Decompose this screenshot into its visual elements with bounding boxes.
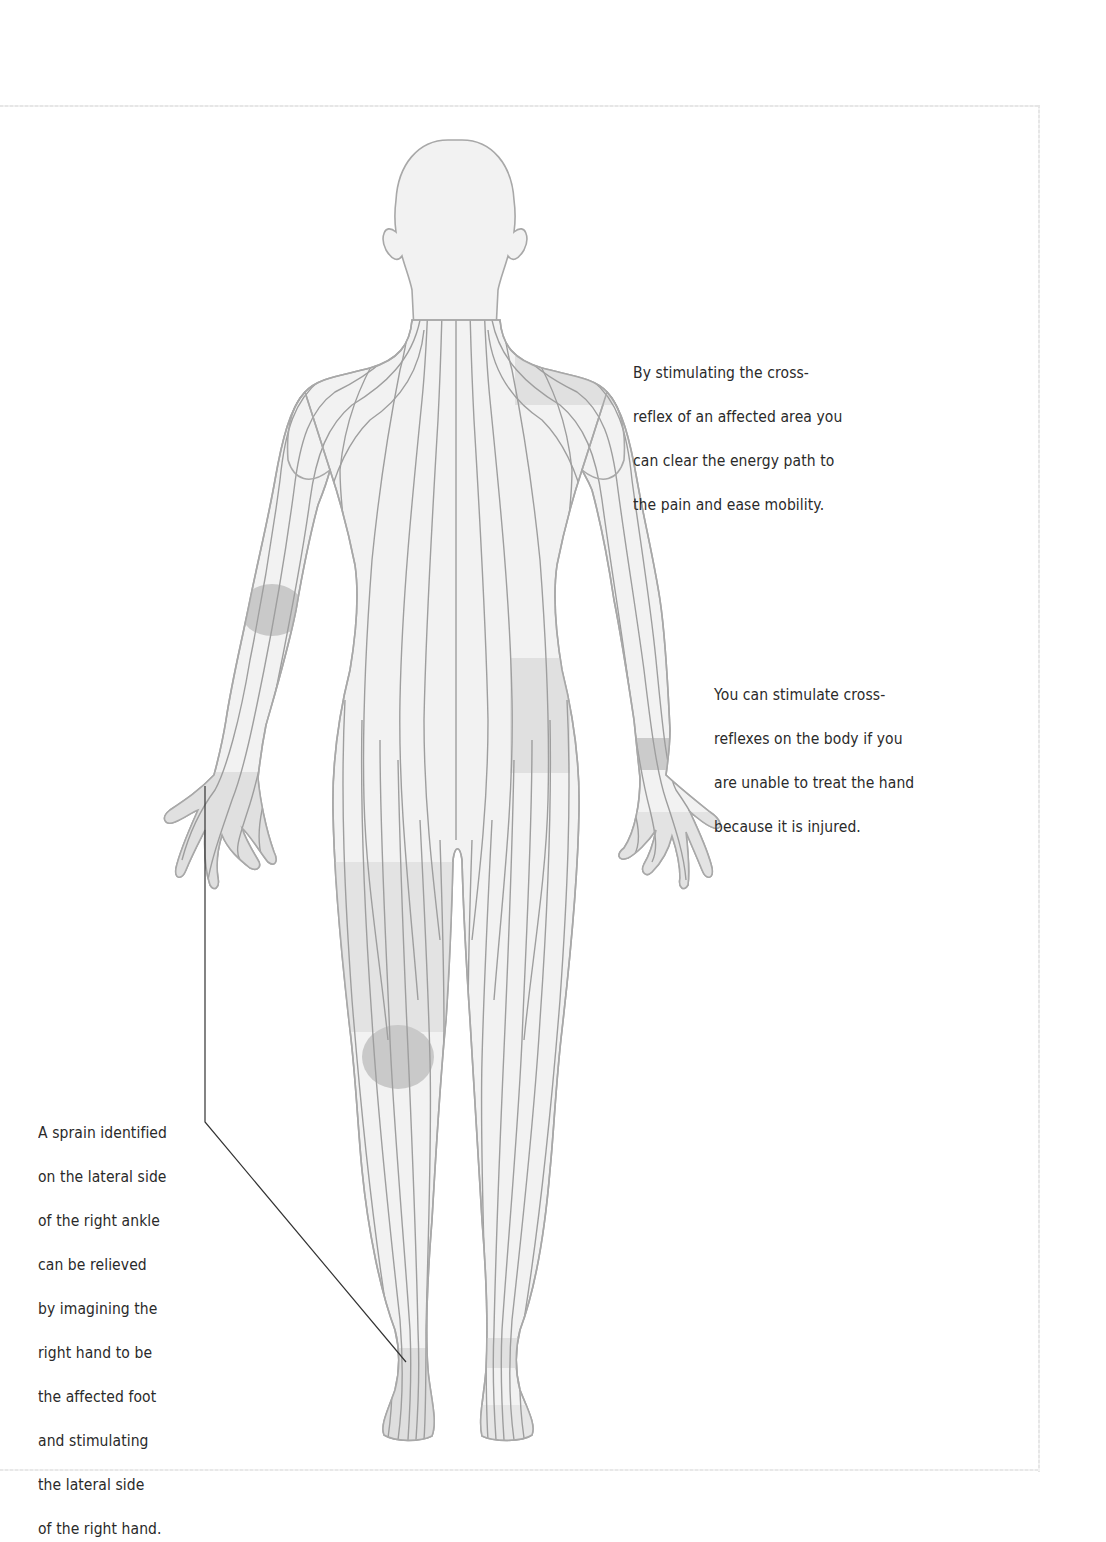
- caption-line: are unable to treat the hand: [714, 772, 914, 794]
- left-hand-highlight: [610, 812, 730, 892]
- right-hand-highlight: [150, 772, 290, 892]
- caption-line: of the right hand.: [38, 1518, 167, 1540]
- caption-line: reflex of an affected area you: [633, 406, 842, 428]
- caption-ankle-sprain: A sprain identified on the lateral side …: [38, 1100, 167, 1542]
- caption-line: can clear the energy path to: [633, 450, 842, 472]
- caption-shoulder-cross-reflex: By stimulating the cross- reflex of an a…: [633, 340, 842, 538]
- caption-line: the affected foot: [38, 1386, 167, 1408]
- caption-line: the pain and ease mobility.: [633, 494, 842, 516]
- caption-line: You can stimulate cross-: [714, 684, 914, 706]
- caption-line: on the lateral side: [38, 1166, 167, 1188]
- caption-line: By stimulating the cross-: [633, 362, 842, 384]
- caption-line: and stimulating: [38, 1430, 167, 1452]
- caption-line: A sprain identified: [38, 1122, 167, 1144]
- left-hip-highlight: [510, 658, 570, 773]
- caption-line: can be relieved: [38, 1254, 167, 1276]
- caption-line: the lateral side: [38, 1474, 167, 1496]
- caption-line: because it is injured.: [714, 816, 914, 838]
- caption-line: by imagining the: [38, 1298, 167, 1320]
- head: [383, 140, 527, 335]
- caption-hand-injured: You can stimulate cross- reflexes on the…: [714, 662, 914, 860]
- caption-line: reflexes on the body if you: [714, 728, 914, 750]
- caption-line: of the right ankle: [38, 1210, 167, 1232]
- caption-line: right hand to be: [38, 1342, 167, 1364]
